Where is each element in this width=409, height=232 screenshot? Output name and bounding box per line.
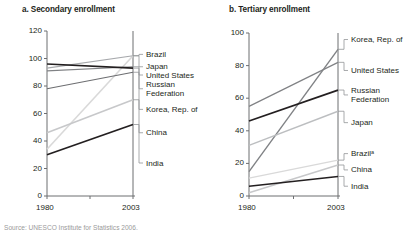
leader-line-tertiary	[338, 62, 348, 70]
series-label-secondary-unitedstates: United States	[146, 71, 194, 80]
leader-line-tertiary	[338, 154, 348, 161]
y-tick-label-tertiary-20: 20	[218, 159, 244, 167]
series-label-tertiary-india: India	[351, 182, 368, 191]
series-label-secondary-china: China	[146, 128, 167, 137]
chart-panel-tertiary: b. Tertiary enrollment 02040608010019802…	[205, 0, 409, 232]
series-label-tertiary-korearepof: Korea, Rep. of	[351, 35, 403, 44]
y-tick-label-secondary-40: 40	[16, 137, 42, 145]
series-line-secondary-india	[47, 125, 133, 155]
series-line-tertiary-korearepof	[249, 49, 338, 171]
leader-line-tertiary	[338, 40, 348, 50]
series-line-secondary-korearepof	[47, 72, 133, 89]
y-tick-label-secondary-0: 0	[16, 192, 42, 200]
y-tick-label-tertiary-40: 40	[218, 127, 244, 135]
leader-line-secondary	[133, 68, 143, 89]
series-label-tertiary-china: China	[351, 165, 372, 174]
leader-line-secondary	[133, 100, 143, 133]
y-tick-label-tertiary-0: 0	[218, 192, 244, 200]
x-tick-label-tertiary-1980: 1980	[238, 204, 256, 212]
source-caption: Source: UNESCO Institute for Statistics …	[4, 224, 404, 232]
y-tick-label-tertiary-60: 60	[218, 94, 244, 102]
series-label-tertiary-japan: Japan	[351, 118, 373, 127]
y-tick-label-secondary-60: 60	[16, 110, 42, 118]
series-label-secondary-india: India	[146, 159, 163, 168]
x-tick-label-secondary-2003: 2003	[122, 204, 140, 212]
series-label-tertiary-unitedstates: United States	[351, 66, 399, 75]
figure-root: a. Secondary enrollment 0204060801001201…	[0, 0, 409, 232]
series-label-tertiary-brazil: Brazilᵃ	[351, 149, 374, 158]
y-tick-label-secondary-120: 120	[16, 27, 42, 35]
chart-panel-secondary: a. Secondary enrollment 0204060801001201…	[0, 0, 204, 232]
leader-line-secondary	[133, 72, 143, 109]
x-tick-label-secondary-1980: 1980	[36, 204, 54, 212]
series-line-tertiary-unitedstates	[249, 62, 338, 106]
y-tick-label-tertiary-100: 100	[218, 29, 244, 37]
y-tick-label-secondary-100: 100	[16, 55, 42, 63]
series-label-secondary-korearepof: Korea, Rep. of	[146, 105, 198, 114]
y-tick-label-secondary-80: 80	[16, 82, 42, 90]
series-line-secondary-china	[47, 100, 133, 133]
y-tick-label-secondary-20: 20	[16, 165, 42, 173]
y-tick-label-tertiary-80: 80	[218, 62, 244, 70]
series-line-tertiary-india	[249, 176, 338, 186]
leader-line-secondary	[133, 125, 143, 164]
series-label-secondary-brazil: Brazil	[146, 50, 166, 59]
x-tick-label-tertiary-2003: 2003	[327, 204, 345, 212]
leader-line-secondary	[133, 56, 143, 67]
leader-line-tertiary	[338, 165, 348, 170]
leader-line-tertiary	[338, 90, 348, 95]
leader-line-tertiary	[338, 111, 348, 122]
series-label-secondary-russianfederation: RussianFederation	[146, 80, 184, 98]
leader-line-tertiary	[338, 176, 348, 186]
series-label-tertiary-russianfederation: RussianFederation	[351, 86, 389, 104]
